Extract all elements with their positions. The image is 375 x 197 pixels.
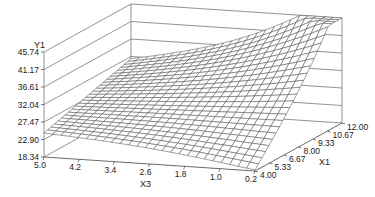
x3-tick-label: 5.0 bbox=[34, 160, 46, 170]
x3-tick-label: 1.8 bbox=[175, 169, 187, 179]
y1-tick-label: 27.47 bbox=[18, 117, 40, 127]
y1-axis-label: Y1 bbox=[34, 40, 45, 50]
y1-tick-label: 36.61 bbox=[18, 82, 40, 92]
x3-tick-label: 1.0 bbox=[210, 172, 222, 182]
y1-axis-ticks: 18.3422.9027.4732.0436.6141.1745.74 bbox=[18, 47, 44, 162]
x3-tick-label: 0.2 bbox=[245, 174, 257, 184]
x1-axis-label: X1 bbox=[319, 157, 330, 167]
x3-axis-label: X3 bbox=[140, 179, 151, 189]
surface-plot: 18.3422.9027.4732.0436.6141.1745.74 5.04… bbox=[0, 0, 375, 197]
response-surface bbox=[44, 15, 342, 170]
y1-tick-label: 32.04 bbox=[18, 100, 40, 110]
y1-tick-label: 41.17 bbox=[18, 65, 40, 75]
x3-tick-label: 2.6 bbox=[140, 167, 152, 177]
x1-tick-label: 12.00 bbox=[347, 122, 369, 132]
x3-tick-label: 4.2 bbox=[69, 162, 81, 172]
x3-tick-label: 3.4 bbox=[104, 165, 116, 175]
y1-tick-label: 22.90 bbox=[18, 135, 40, 145]
